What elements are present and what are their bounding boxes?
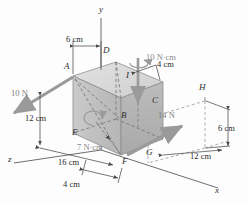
dim-6cm-right-ext-top [206, 101, 230, 110]
point-a-label: A [64, 62, 70, 71]
dim-6cm-right-label: 6 cm [218, 124, 235, 133]
dim-4cm-lower-group [82, 160, 122, 183]
force-10n-label: 10 N [11, 89, 28, 98]
statics-figure: y x z A B C D E F G H I 10 N 14 N 10 N·c… [0, 0, 248, 206]
dim-12cm-left-label: 12 cm [25, 114, 46, 123]
dim-4cm-lower-label: 4 cm [63, 180, 80, 189]
dim-6cm-right-ext-bottom [206, 146, 230, 148]
dim-6cm-top-label: 6 cm [66, 35, 83, 44]
x-axis-label: x [215, 186, 219, 195]
point-h-label: H [199, 83, 206, 92]
dim-4cm-upper-label: 4 cm [157, 60, 174, 69]
moment-7ncm-label: 7 N·cm [77, 143, 103, 152]
dim-4cm-lower-ext-right [118, 168, 122, 183]
figure-drawing [0, 0, 248, 206]
dim-4cm-lower-ext-left [82, 160, 86, 175]
point-e-label: E [72, 128, 78, 137]
point-i-label: I [126, 71, 129, 80]
force-14n-label: 14 N [158, 111, 175, 120]
y-axis-label: y [99, 5, 103, 14]
dim-12cm-right-label: 12 cm [190, 152, 211, 161]
point-g-label: G [146, 148, 153, 157]
dim-4cm-lower-line [84, 170, 118, 178]
point-b-label: B [121, 111, 127, 120]
dim-16cm-label: 16 cm [58, 158, 79, 167]
point-d-label: D [103, 46, 110, 55]
z-axis-label: z [8, 155, 12, 164]
point-f-label: F [122, 157, 128, 166]
point-c-label: C [152, 96, 158, 105]
